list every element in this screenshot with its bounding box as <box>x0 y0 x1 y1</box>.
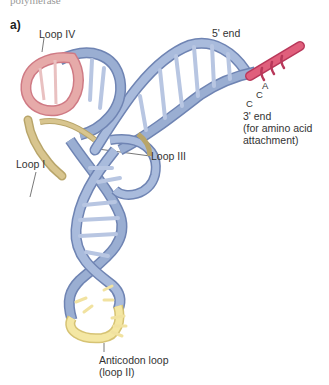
label-loop-i: Loop I <box>16 158 45 170</box>
trna-ribbon-diagram <box>0 0 329 385</box>
loop-iv <box>26 57 79 110</box>
loop-iii-region <box>110 134 156 195</box>
three-prime-acceptor-end <box>250 46 300 80</box>
anticodon-stem-helix <box>69 140 122 320</box>
label-base-c1: C <box>256 89 263 101</box>
label-base-c2: C <box>246 98 253 110</box>
label-three-prime-end: 3' end <box>243 110 271 122</box>
label-three-prime-note2: attachment) <box>243 134 298 146</box>
label-loop-iv: Loop IV <box>39 28 75 40</box>
label-anticodon-loop: Anticodon loop <box>99 354 168 366</box>
label-five-prime-end: 5' end <box>212 27 240 39</box>
label-anticodon-loop-alt: (loop II) <box>99 366 135 378</box>
label-loop-iii: Loop III <box>151 150 186 162</box>
label-three-prime-note: (for amino acid <box>243 122 312 134</box>
